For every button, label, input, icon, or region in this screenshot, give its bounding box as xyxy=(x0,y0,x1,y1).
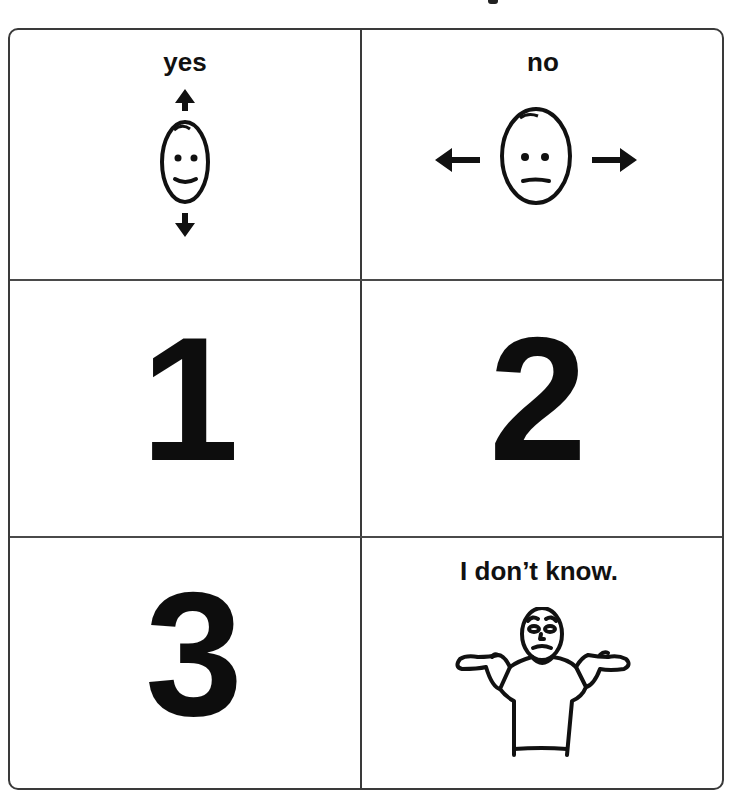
no-label: no xyxy=(362,49,724,75)
dont-know-label: I don’t know. xyxy=(358,558,720,584)
cell-2[interactable]: 2 xyxy=(362,281,724,536)
cell-dont-know[interactable]: I don’t know. xyxy=(362,538,724,790)
communication-board: yes no 1 xyxy=(8,28,724,790)
number-2: 2 xyxy=(356,311,718,487)
cell-yes[interactable]: yes xyxy=(10,30,360,279)
number-3: 3 xyxy=(18,566,368,742)
shake-no-face-icon xyxy=(432,102,642,207)
yes-label: yes xyxy=(10,49,360,75)
cell-no[interactable]: no xyxy=(362,30,724,279)
shrug-person-icon xyxy=(452,607,632,757)
number-1: 1 xyxy=(14,311,364,487)
cell-3[interactable]: 3 xyxy=(10,538,360,790)
nod-yes-face-icon xyxy=(150,85,220,245)
cut-off-header-fragment xyxy=(488,0,498,4)
cell-1[interactable]: 1 xyxy=(10,281,360,536)
